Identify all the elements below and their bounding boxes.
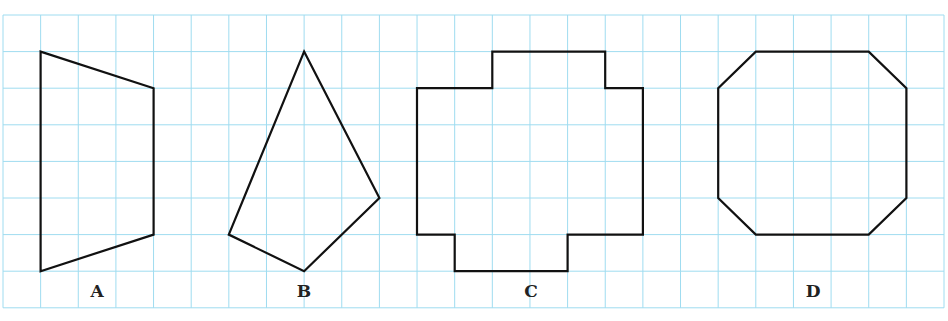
label-c: C xyxy=(524,281,538,301)
grid-lines xyxy=(3,15,944,308)
grid-figure: A B C D xyxy=(0,0,948,321)
label-b: B xyxy=(297,281,311,301)
label-a: A xyxy=(89,281,104,301)
label-d: D xyxy=(806,281,821,301)
shape-d-octagon xyxy=(718,52,906,235)
